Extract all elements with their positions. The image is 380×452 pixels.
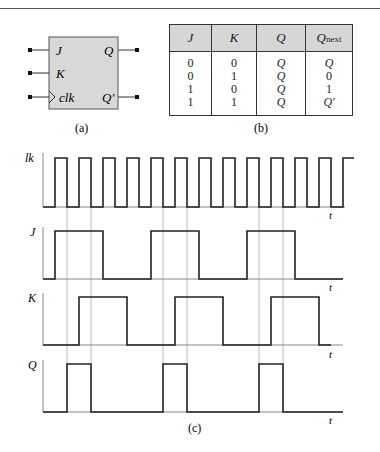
clk-time-label: t bbox=[329, 209, 333, 221]
pin-clk-terminal bbox=[28, 95, 32, 99]
label-q: Q bbox=[104, 43, 114, 58]
pin-j-terminal bbox=[28, 48, 32, 52]
clk-signal-label: lk bbox=[25, 151, 34, 165]
pin-qbar-terminal bbox=[135, 95, 139, 99]
caption-c: (c) bbox=[188, 421, 201, 435]
clk-waveform bbox=[43, 158, 354, 207]
header-q: Q bbox=[257, 25, 306, 52]
col-k: 0 1 0 1 bbox=[212, 52, 257, 116]
k-time-label: t bbox=[329, 348, 333, 360]
j-signal-label: J bbox=[30, 225, 36, 239]
header-j: J bbox=[170, 25, 212, 52]
pin-k-terminal bbox=[28, 71, 32, 75]
col-qnext: Q 0 1 Q' bbox=[306, 52, 353, 116]
q-waveform bbox=[43, 364, 343, 412]
q-time-label: t bbox=[329, 414, 333, 426]
k-signal-label: K bbox=[27, 291, 37, 305]
caption-b: (b) bbox=[254, 121, 268, 135]
truth-table: J K Q Qnext 0 0 1 1 0 1 0 1 bbox=[169, 24, 353, 116]
label-clk: clk bbox=[59, 90, 74, 105]
header-qnext: Qnext bbox=[306, 25, 353, 52]
q-signal-label: Q bbox=[28, 358, 37, 372]
col-q: Q Q Q Q bbox=[257, 52, 306, 116]
j-waveform bbox=[43, 231, 343, 279]
label-k: K bbox=[55, 66, 66, 81]
pin-q-terminal bbox=[135, 48, 139, 52]
col-j: 0 0 1 1 bbox=[170, 52, 212, 116]
caption-a: (a) bbox=[75, 121, 88, 135]
header-k: K bbox=[212, 25, 257, 52]
j-time-label: t bbox=[329, 281, 333, 293]
label-qbar: Q' bbox=[102, 90, 114, 105]
